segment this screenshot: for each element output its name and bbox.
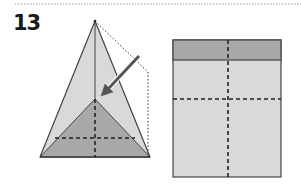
diagram-canvas bbox=[0, 0, 301, 190]
right-figure-rectangle bbox=[173, 40, 281, 177]
apex-point bbox=[94, 20, 97, 23]
left-figure-triangle bbox=[40, 20, 150, 157]
folded-strip bbox=[173, 40, 281, 60]
